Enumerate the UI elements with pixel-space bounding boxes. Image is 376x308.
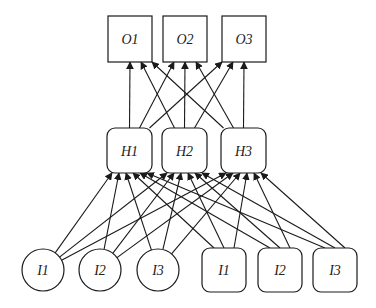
edge-h2-o1	[141, 62, 175, 128]
node-label: I1	[36, 263, 49, 278]
edge-h1-o2	[140, 62, 175, 128]
hidden-node-h2: H2	[162, 128, 207, 173]
hidden-node-h1: H1	[107, 128, 152, 173]
nodes-layer: O1O2O3H1H2H3I1I2I3I1I2I3	[22, 16, 357, 292]
edge-ic2-h1	[104, 173, 119, 249]
edge-h1-o3	[150, 62, 223, 128]
edge-is3-h2	[202, 173, 335, 248]
input-circle-node-ic2: I2	[79, 249, 121, 291]
edge-h2-o3	[195, 62, 234, 128]
edge-h1-o1	[130, 62, 131, 128]
input-square-node-is2: I2	[258, 248, 302, 292]
output-node-o1: O1	[108, 16, 152, 62]
edge-h3-o1	[152, 62, 224, 128]
node-label: H3	[234, 144, 252, 159]
input-square-node-is3: I3	[313, 248, 357, 292]
node-label: O2	[176, 32, 193, 47]
edge-h3-o2	[196, 62, 234, 128]
node-label: I2	[93, 263, 106, 278]
input-circle-node-ic1: I1	[22, 249, 64, 291]
node-label: H2	[175, 144, 193, 159]
input-circle-node-ic3: I3	[137, 249, 179, 291]
node-label: O1	[121, 32, 138, 47]
edge-ic3-h1	[126, 173, 151, 250]
edge-h3-o3	[244, 62, 245, 128]
hidden-node-h3: H3	[221, 128, 266, 173]
edge-h2-o2	[185, 62, 186, 128]
node-label: I2	[273, 263, 286, 278]
neural-network-diagram: O1O2O3H1H2H3I1I2I3I1I2I3	[0, 0, 376, 308]
node-label: H1	[120, 144, 138, 159]
output-node-o2: O2	[163, 16, 207, 62]
edge-ic1-h2	[60, 173, 167, 257]
input-square-node-is1: I1	[202, 248, 246, 292]
edge-ic2-h3	[117, 173, 233, 258]
edge-ic3-h3	[172, 173, 240, 254]
output-node-o3: O3	[222, 16, 266, 62]
node-label: I1	[217, 263, 230, 278]
node-label: I3	[328, 263, 341, 278]
edge-ic1-h3	[62, 173, 226, 260]
edge-is2-h3	[254, 173, 290, 248]
edge-is3-h3	[261, 173, 345, 248]
edge-ic1-h1	[55, 173, 112, 253]
node-label: O3	[235, 32, 252, 47]
node-label: I3	[151, 263, 164, 278]
